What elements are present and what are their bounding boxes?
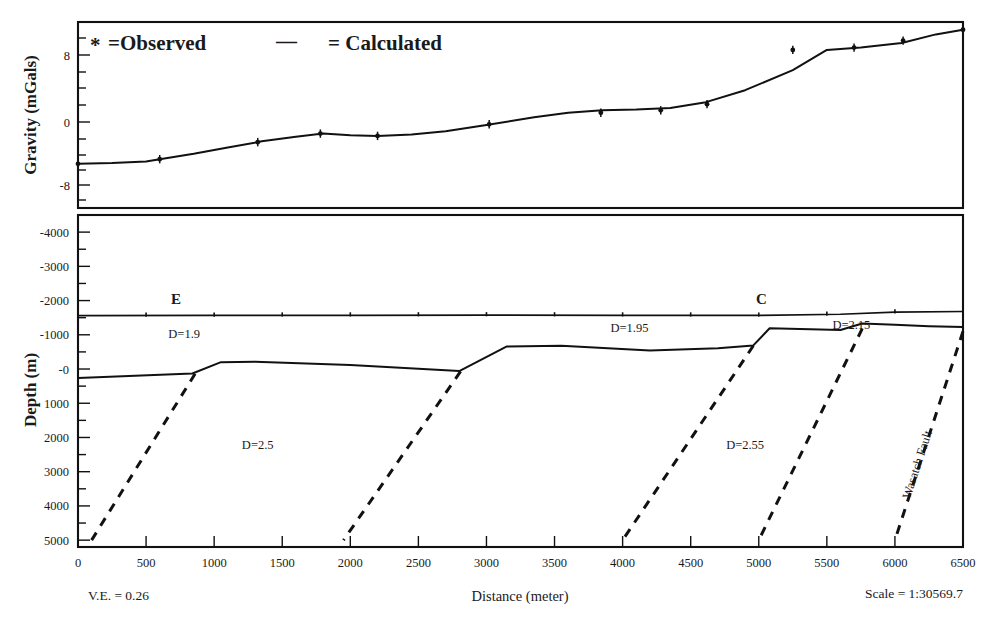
- depth-tick-label: 2000: [44, 431, 69, 445]
- distance-tick-label: 4500: [678, 556, 703, 570]
- distance-tick-label: 0: [75, 556, 81, 570]
- observed-data-point: [961, 26, 966, 34]
- calculated-legend-label: = Calculated: [328, 31, 442, 55]
- distance-tick-label: 6500: [951, 556, 976, 570]
- station-markers-group: EC: [171, 291, 767, 307]
- calculated-gravity-line: [78, 30, 963, 164]
- fault-2: [344, 371, 461, 540]
- fault-1: [92, 374, 195, 540]
- gravity-ytick-neg8: -8: [60, 179, 70, 193]
- distance-tick-label: 500: [137, 556, 156, 570]
- distance-axis-title: Distance (meter): [471, 588, 568, 605]
- depth-tick-label: 4000: [44, 499, 69, 513]
- vertical-exaggeration-label: V.E. = 0.26: [88, 588, 149, 603]
- distance-tick-label: 2000: [338, 556, 363, 570]
- distance-tick-label: 1000: [202, 556, 227, 570]
- depth-tick-label: -1000: [40, 328, 69, 342]
- gravity-y-ticks: [78, 38, 90, 200]
- distance-tick-label: 5000: [746, 556, 771, 570]
- cross-section-plot-frame: [78, 215, 963, 547]
- depth-tick-label: -2000: [40, 294, 69, 308]
- observed-data-point: [487, 120, 492, 128]
- depth-axis-title: Depth (m): [21, 353, 40, 427]
- density-label: D=2.5: [242, 438, 274, 452]
- distance-tick-label: 4000: [610, 556, 635, 570]
- gravity-panel: 8 0 -8 Gravity (mGals) * =Observed — = C…: [21, 22, 965, 208]
- depth-tick-label: -4000: [40, 226, 69, 240]
- gravity-ytick-0: 0: [64, 116, 70, 130]
- station-marker-e: E: [171, 291, 181, 307]
- distance-tick-label: 1500: [270, 556, 295, 570]
- figure-canvas: 8 0 -8 Gravity (mGals) * =Observed — = C…: [0, 0, 1004, 627]
- wasatch-fault-label: Wasatch Fault: [900, 428, 935, 500]
- observed-data-point: [76, 160, 81, 168]
- distance-tick-label: 5500: [814, 556, 839, 570]
- gravity-legend: * =Observed — = Calculated: [90, 29, 442, 57]
- density-labels-group: D=1.9D=2.5D=1.95D=2.15D=2.55: [168, 318, 870, 452]
- observed-data-point: [318, 129, 323, 137]
- observed-data-point: [255, 138, 260, 146]
- depth-tick-label: 1000: [44, 397, 69, 411]
- density-label: D=1.95: [610, 321, 648, 335]
- gravity-axis-title: Gravity (mGals): [21, 55, 40, 174]
- station-marker-c: C: [756, 291, 767, 307]
- depth-tick-label: 3000: [44, 465, 69, 479]
- distance-xtick-labels: 0500100015002000250030003500400045005000…: [75, 556, 976, 570]
- distance-tick-label: 3500: [542, 556, 567, 570]
- gravity-curve-group: [76, 26, 966, 168]
- basement-contact-line: [78, 324, 963, 378]
- horizon-lines-group: [78, 309, 963, 378]
- topographic-surface-line: [78, 312, 963, 316]
- fault-4: [759, 329, 862, 541]
- depth-tick-label: 5000: [44, 534, 69, 548]
- distance-tick-label: 2500: [406, 556, 431, 570]
- density-label: D=1.9: [168, 327, 200, 341]
- distance-tick-label: 6000: [882, 556, 907, 570]
- observed-data-point: [375, 132, 380, 140]
- observed-legend-label: =Observed: [108, 31, 207, 55]
- density-label: D=2.55: [726, 438, 764, 452]
- calculated-marker-icon: —: [275, 29, 298, 53]
- map-scale-label: Scale = 1:30569.7: [865, 586, 963, 601]
- depth-tick-label: -3000: [40, 260, 69, 274]
- density-label: D=2.15: [832, 318, 870, 332]
- fault-labels-group: Wasatch Fault: [900, 428, 935, 500]
- depth-y-ticks: [78, 232, 90, 540]
- cross-section-panel: -4000-3000-2000-1000-0100020003000400050…: [21, 215, 976, 570]
- observed-data-point: [157, 155, 162, 163]
- observed-data-point: [790, 46, 795, 54]
- observed-data-point: [852, 43, 857, 51]
- depth-ytick-labels: -4000-3000-2000-1000-0100020003000400050…: [40, 226, 69, 548]
- depth-tick-label: -0: [59, 363, 69, 377]
- observed-marker-icon: *: [90, 33, 101, 57]
- fault-lines-group: [92, 329, 963, 541]
- distance-tick-label: 3000: [474, 556, 499, 570]
- gravity-model-figure: 8 0 -8 Gravity (mGals) * =Observed — = C…: [0, 0, 1004, 627]
- gravity-ytick-8: 8: [64, 49, 70, 63]
- distance-x-ticks: [78, 536, 963, 547]
